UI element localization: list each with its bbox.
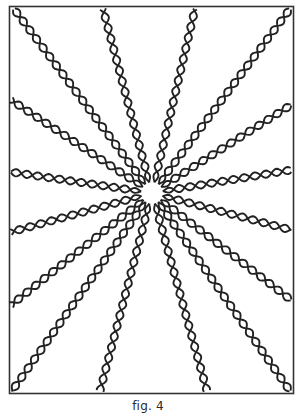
- center-square: [146, 186, 159, 199]
- figure-caption: fig. 4: [0, 399, 296, 413]
- rope-strand-5-b: [163, 169, 291, 192]
- rope-strand-4-b: [161, 105, 291, 187]
- rope-strands: [9, 8, 291, 392]
- figure-illustration: [0, 0, 296, 400]
